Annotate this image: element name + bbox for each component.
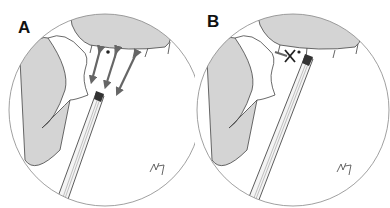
dome-structure [70, 8, 172, 50]
panel-label-a: A [18, 19, 30, 36]
panel-b: B [195, 0, 390, 208]
panel-label-b: B [207, 13, 219, 30]
dome-structure [257, 8, 362, 50]
artist-signature [337, 163, 351, 175]
instrument-shaft [247, 54, 313, 205]
panel-a: A [0, 0, 195, 208]
artist-signature [150, 163, 164, 175]
movement-arrows [92, 50, 136, 92]
left-tissue [20, 37, 70, 165]
left-tissue [207, 37, 257, 165]
panel-b-illustration [195, 0, 390, 208]
